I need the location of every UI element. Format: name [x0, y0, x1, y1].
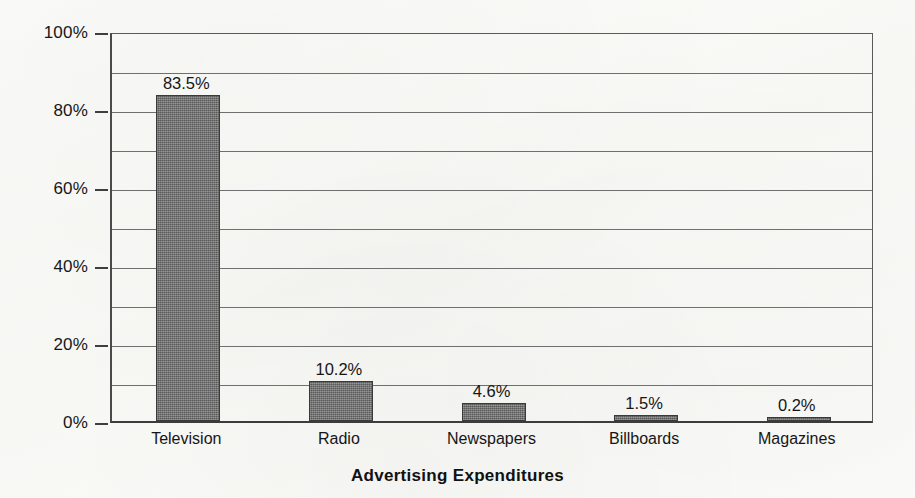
x-axis-label: Billboards: [609, 430, 679, 448]
bar-value-label: 10.2%: [315, 360, 362, 379]
x-axis-label: Magazines: [758, 430, 835, 448]
y-axis-tick-label: 20%: [10, 335, 88, 355]
bar-value-label: 0.2%: [778, 396, 816, 415]
y-axis-tick-label: 0%: [10, 413, 88, 433]
y-axis-tick-label: 40%: [10, 257, 88, 277]
gridline: [112, 229, 872, 230]
bar-value-label: 4.6%: [473, 382, 511, 401]
bar-chart-figure: 0%20%40%60%80%100% 83.5%10.2%4.6%1.5%0.2…: [0, 0, 915, 498]
gridline: [112, 151, 872, 152]
bar: [156, 95, 220, 421]
y-axis-tick: [95, 345, 108, 347]
gridline: [112, 190, 872, 191]
bar: [462, 403, 526, 421]
plot-area: [110, 33, 873, 423]
bar: [767, 417, 831, 421]
y-axis-tick: [95, 111, 108, 113]
y-axis-tick-label: 60%: [10, 179, 88, 199]
y-axis-tick: [95, 423, 108, 425]
bar: [614, 415, 678, 421]
y-axis-tick-label: 100%: [10, 23, 88, 43]
gridline: [112, 112, 872, 113]
y-axis: 0%20%40%60%80%100%: [0, 0, 88, 498]
bar: [309, 381, 373, 421]
x-axis-label: Television: [151, 430, 221, 448]
bar-value-label: 83.5%: [163, 74, 210, 93]
chart-title: Advertising Expenditures: [0, 466, 915, 486]
gridline: [112, 268, 872, 269]
gridline: [112, 307, 872, 308]
y-axis-tick: [95, 189, 108, 191]
y-axis-tick: [95, 267, 108, 269]
y-axis-tick-label: 80%: [10, 101, 88, 121]
y-axis-tick: [95, 33, 108, 35]
gridline: [112, 346, 872, 347]
gridline: [112, 73, 872, 74]
x-axis-label: Newspapers: [447, 430, 536, 448]
x-axis-label: Radio: [318, 430, 360, 448]
bar-value-label: 1.5%: [625, 394, 663, 413]
